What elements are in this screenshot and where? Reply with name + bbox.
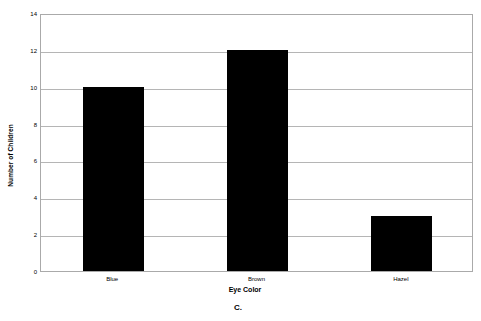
y-axis-tick-label: 8 [7, 122, 37, 128]
bar [371, 216, 432, 271]
bar [83, 87, 144, 271]
plot-area [40, 14, 473, 272]
x-axis-tick-label: Brown [217, 276, 297, 283]
bar-chart-figure: Number of Children 14121086420 BlueBrown… [0, 0, 481, 321]
x-axis-tick-label: Blue [72, 276, 152, 283]
y-axis-tick-label: 0 [7, 269, 37, 275]
y-axis-tick-label: 2 [7, 232, 37, 238]
figure-caption: C. [198, 303, 278, 312]
y-axis-tick-label: 6 [7, 158, 37, 164]
y-axis-tick-label: 14 [7, 11, 37, 17]
bar [227, 50, 288, 271]
y-axis-title-text: Number of Children [7, 124, 14, 186]
x-axis-tick-label: Hazel [361, 276, 441, 283]
x-axis-title: Eye Color [205, 286, 285, 294]
y-axis-title: Number of Children [2, 105, 18, 205]
y-axis-tick-label: 4 [7, 195, 37, 201]
y-axis-tick-label: 12 [7, 48, 37, 54]
y-axis-tick-label: 10 [7, 85, 37, 91]
